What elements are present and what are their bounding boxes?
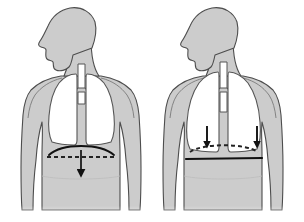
anatomy-diagram — [0, 0, 304, 222]
bottom-fade — [0, 186, 304, 222]
trachea — [220, 62, 227, 88]
diaphragm-flattened-line — [186, 158, 262, 159]
bronchial-stem — [220, 92, 227, 112]
bronchial-stem — [78, 92, 85, 104]
illustration-canvas — [0, 0, 304, 222]
trachea — [78, 64, 85, 88]
